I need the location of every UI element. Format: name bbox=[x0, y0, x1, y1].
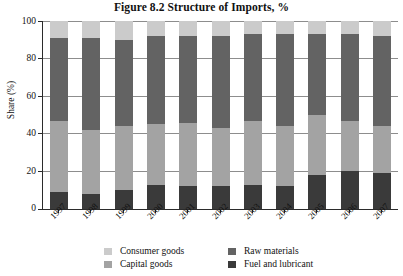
bar-segment-2000-consumer bbox=[147, 21, 165, 36]
bar-segment-2006-consumer bbox=[341, 21, 359, 34]
bar-segment-2000-raw bbox=[147, 36, 165, 124]
bar-segment-2001-consumer bbox=[179, 21, 197, 36]
bar-segment-2007-raw bbox=[373, 36, 391, 126]
bar-segment-2001-capital bbox=[179, 123, 197, 187]
bar-segment-1999-raw bbox=[115, 40, 133, 126]
bar-segment-2000-capital bbox=[147, 124, 165, 184]
legend-item-consumer-goods[interactable]: Consumer goods bbox=[104, 246, 184, 256]
legend-swatch-fuel-and-lubricant bbox=[228, 261, 236, 268]
bar-segment-2006-capital bbox=[341, 121, 359, 172]
bar-segment-2005-consumer bbox=[308, 21, 326, 34]
legend-swatch-consumer-goods bbox=[104, 248, 112, 255]
legend-label-consumer-goods: Consumer goods bbox=[120, 246, 184, 256]
bar-segment-2004-raw bbox=[276, 34, 294, 126]
legend-item-raw-materials[interactable]: Raw materials bbox=[228, 246, 299, 256]
bar-segment-1997-capital bbox=[50, 121, 68, 192]
bar-2005[interactable] bbox=[308, 21, 326, 209]
bar-1999[interactable] bbox=[115, 21, 133, 209]
bar-segment-2004-capital bbox=[276, 126, 294, 186]
bar-segment-1997-consumer bbox=[50, 21, 68, 38]
chart-title: Figure 8.2 Structure of Imports, % bbox=[0, 1, 403, 13]
bar-segment-1999-consumer bbox=[115, 21, 133, 40]
legend-swatch-capital-goods bbox=[104, 261, 112, 268]
bar-segment-2005-raw bbox=[308, 34, 326, 115]
bar-segment-2003-consumer bbox=[244, 21, 262, 34]
bar-segment-2006-raw bbox=[341, 34, 359, 120]
plot-area bbox=[42, 21, 398, 210]
bar-2007[interactable] bbox=[373, 21, 391, 209]
y-tick-label-60: 60 bbox=[6, 91, 36, 101]
bar-2001[interactable] bbox=[179, 21, 197, 209]
bar-segment-2002-raw bbox=[212, 36, 230, 128]
legend-item-capital-goods[interactable]: Capital goods bbox=[104, 259, 173, 269]
bar-segment-2004-consumer bbox=[276, 21, 294, 34]
bar-segment-1999-capital bbox=[115, 126, 133, 190]
y-tick-label-0: 0 bbox=[6, 203, 36, 213]
figure-container: Figure 8.2 Structure of Imports, % Share… bbox=[0, 0, 403, 276]
bar-segment-2002-consumer bbox=[212, 21, 230, 36]
y-tick-label-20: 20 bbox=[6, 166, 36, 176]
bar-1997[interactable] bbox=[50, 21, 68, 209]
bar-2002[interactable] bbox=[212, 21, 230, 209]
chart-legend: Consumer goods Capital goods Raw materia… bbox=[104, 246, 394, 272]
bar-segment-1998-capital bbox=[82, 130, 100, 194]
bar-segment-2005-capital bbox=[308, 115, 326, 175]
legend-label-fuel-and-lubricant: Fuel and lubricant bbox=[244, 259, 313, 269]
bar-segment-2002-capital bbox=[212, 128, 230, 186]
legend-label-capital-goods: Capital goods bbox=[120, 259, 173, 269]
bar-2000[interactable] bbox=[147, 21, 165, 209]
bar-segment-2001-raw bbox=[179, 36, 197, 122]
y-axis-title: Share (%) bbox=[6, 65, 16, 135]
y-tick-label-40: 40 bbox=[6, 128, 36, 138]
y-tick-label-100: 100 bbox=[6, 16, 36, 26]
bar-1998[interactable] bbox=[82, 21, 100, 209]
bar-segment-2007-capital bbox=[373, 126, 391, 173]
y-tick-label-80: 80 bbox=[6, 53, 36, 63]
bar-segment-2003-raw bbox=[244, 34, 262, 120]
bar-2006[interactable] bbox=[341, 21, 359, 209]
legend-swatch-raw-materials bbox=[228, 248, 236, 255]
bar-2003[interactable] bbox=[244, 21, 262, 209]
bar-2004[interactable] bbox=[276, 21, 294, 209]
bar-segment-1998-raw bbox=[82, 38, 100, 130]
legend-item-fuel-and-lubricant[interactable]: Fuel and lubricant bbox=[228, 259, 313, 269]
bar-segment-2007-consumer bbox=[373, 21, 391, 36]
bar-segment-1997-raw bbox=[50, 38, 68, 121]
bar-segment-1998-consumer bbox=[82, 21, 100, 38]
bar-segment-2003-capital bbox=[244, 121, 262, 185]
legend-label-raw-materials: Raw materials bbox=[244, 246, 299, 256]
